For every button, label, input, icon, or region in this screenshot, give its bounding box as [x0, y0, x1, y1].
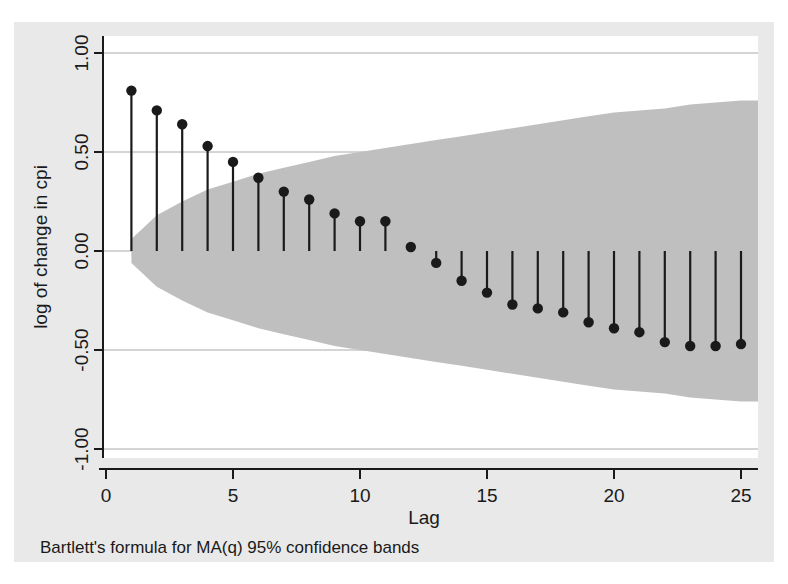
x-tick-label-15: 15 — [476, 485, 497, 506]
y-tick-label-0.50: 0.50 — [71, 134, 92, 171]
data-point-lag-25 — [736, 339, 746, 349]
y-tick-label-1.00: 1.00 — [71, 35, 92, 72]
data-point-lag-8 — [304, 194, 314, 204]
data-point-lag-2 — [152, 105, 162, 115]
data-point-lag-10 — [355, 216, 365, 226]
x-tick-label-25: 25 — [730, 485, 751, 506]
x-tick-label-10: 10 — [349, 485, 370, 506]
data-point-lag-9 — [329, 208, 339, 218]
x-axis-title: Lag — [408, 507, 440, 528]
y-tick-label-0.00: 0.00 — [71, 233, 92, 270]
data-point-lag-7 — [279, 186, 289, 196]
y-tick-label--1.00: -1.00 — [71, 427, 92, 470]
y-axis-title: log of change in cpi — [30, 165, 51, 329]
data-point-lag-13 — [431, 258, 441, 268]
y-tick-label--0.50: -0.50 — [71, 328, 92, 371]
x-tick-label-5: 5 — [228, 485, 239, 506]
data-point-lag-19 — [583, 317, 593, 327]
data-point-lag-15 — [482, 287, 492, 297]
data-point-lag-21 — [634, 327, 644, 337]
data-point-lag-14 — [456, 276, 466, 286]
data-point-lag-17 — [533, 303, 543, 313]
x-tick-label-0: 0 — [101, 485, 112, 506]
data-point-lag-16 — [507, 299, 517, 309]
data-point-lag-24 — [710, 341, 720, 351]
data-point-lag-4 — [202, 141, 212, 151]
data-point-lag-18 — [558, 307, 568, 317]
acf-chart-canvas: 1.000.500.00-0.50-1.00 0510152025 log of… — [0, 0, 788, 584]
data-point-lag-3 — [177, 119, 187, 129]
data-point-lag-1 — [126, 85, 136, 95]
data-point-lag-6 — [253, 173, 263, 183]
data-point-lag-23 — [685, 341, 695, 351]
data-point-lag-20 — [609, 323, 619, 333]
confidence-band-note: Bartlett's formula for MA(q) 95% confide… — [40, 538, 419, 557]
data-point-lag-22 — [660, 337, 670, 347]
data-point-lag-5 — [228, 157, 238, 167]
data-point-lag-12 — [406, 242, 416, 252]
acf-figure: 1.000.500.00-0.50-1.00 0510152025 log of… — [0, 0, 788, 584]
x-tick-label-20: 20 — [603, 485, 624, 506]
data-point-lag-11 — [380, 216, 390, 226]
